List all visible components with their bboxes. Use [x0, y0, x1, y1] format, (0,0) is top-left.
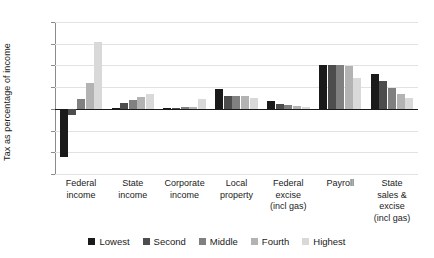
plot-area: [55, 22, 418, 174]
category-label-line: Federal: [55, 178, 107, 190]
bar: [293, 106, 301, 109]
legend-label: Highest: [313, 236, 345, 247]
x-axis-category-labels: FederalincomeStateincomeCorporateincomeL…: [55, 178, 418, 226]
legend-swatch-icon: [143, 238, 150, 245]
bar: [77, 99, 85, 109]
bar: [267, 101, 275, 109]
legend-swatch-icon: [251, 238, 258, 245]
category-label-line: Corporate: [159, 178, 211, 190]
y-axis-title: Tax as percentage of income: [2, 22, 16, 182]
bar-group: [211, 22, 263, 174]
bar: [319, 65, 327, 108]
legend-swatch-icon: [302, 238, 309, 245]
legend-item[interactable]: Middle: [199, 236, 238, 247]
x-axis-category-label: Corporateincome: [159, 178, 211, 201]
category-label-line: Federal: [262, 178, 314, 190]
legend-item[interactable]: Second: [143, 236, 186, 247]
x-axis-category-label: Stateincome: [107, 178, 159, 201]
category-label-line: excise: [262, 190, 314, 202]
category-label-line: income: [55, 190, 107, 202]
bar: [163, 108, 171, 109]
bar: [198, 99, 206, 109]
x-axis-category-label: Federalincome: [55, 178, 107, 201]
bar: [120, 103, 128, 109]
tax-incidence-bar-chart: Tax as percentage of income 20151050−5−1…: [0, 0, 434, 258]
category-label-line: excise: [366, 201, 418, 213]
bar-group: [366, 22, 418, 174]
category-label-line: Payroll: [314, 178, 366, 190]
legend: LowestSecondMiddleFourthHighest: [0, 236, 434, 247]
category-label-line: income: [107, 190, 159, 202]
bar: [328, 65, 336, 108]
bar: [94, 42, 102, 108]
bar: [60, 109, 68, 157]
bar: [302, 107, 310, 109]
y-axis-tick: [51, 174, 55, 175]
bar: [379, 81, 387, 108]
bar: [146, 94, 154, 109]
bar: [112, 108, 120, 109]
x-axis-category-label: Federalexcise(incl gas): [262, 178, 314, 213]
x-axis-category-label: Statesales &excise(incl gas): [366, 178, 418, 224]
bar-group: [159, 22, 211, 174]
legend-swatch-icon: [88, 238, 95, 245]
bar-groups: [55, 22, 418, 174]
bar: [172, 108, 180, 109]
legend-item[interactable]: Lowest: [88, 236, 129, 247]
bar: [129, 100, 137, 109]
bar: [137, 97, 145, 109]
bar: [68, 109, 76, 116]
bar-group: [262, 22, 314, 174]
bar-group: [107, 22, 159, 174]
x-axis-category-label: Payroll: [314, 178, 366, 190]
legend-label: Second: [154, 236, 186, 247]
category-label-line: State: [366, 178, 418, 190]
bar: [353, 78, 361, 109]
bar: [241, 96, 249, 109]
bar: [181, 107, 189, 109]
legend-swatch-icon: [199, 238, 206, 245]
legend-item[interactable]: Highest: [302, 236, 345, 247]
bar: [397, 94, 405, 109]
bar: [232, 96, 240, 109]
legend-label: Lowest: [99, 236, 129, 247]
bar: [189, 107, 197, 109]
category-label-line: (incl gas): [262, 201, 314, 213]
gridline: [55, 174, 418, 175]
legend-item[interactable]: Fourth: [251, 236, 289, 247]
bar: [336, 65, 344, 108]
category-label-line: State: [107, 178, 159, 190]
bar: [405, 98, 413, 109]
legend-label: Middle: [210, 236, 238, 247]
bar: [345, 66, 353, 109]
category-label-line: (incl gas): [366, 213, 418, 225]
bar: [224, 96, 232, 109]
bar: [371, 74, 379, 109]
bar: [276, 104, 284, 109]
category-label-line: income: [159, 190, 211, 202]
x-axis-category-label: Localproperty: [211, 178, 263, 201]
bar: [215, 89, 223, 109]
category-label-line: property: [211, 190, 263, 202]
bar: [250, 98, 258, 109]
bar: [284, 105, 292, 109]
bar: [388, 88, 396, 108]
bar-group: [314, 22, 366, 174]
category-label-line: sales &: [366, 190, 418, 202]
bar-group: [55, 22, 107, 174]
legend-label: Fourth: [262, 236, 289, 247]
category-label-line: Local: [211, 178, 263, 190]
bar: [86, 83, 94, 109]
